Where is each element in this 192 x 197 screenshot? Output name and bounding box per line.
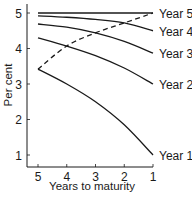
x-tick-label: 5 <box>35 170 42 184</box>
label-year-1: Year 1 <box>159 149 192 163</box>
series-labels: Year 5Year 4Year 3Year 2Year 1 <box>159 7 192 163</box>
series-lines <box>38 13 153 155</box>
x-axis-label: Years to maturity <box>49 180 135 192</box>
y-tick-label: 1 <box>15 149 22 163</box>
line-year-1 <box>38 69 153 155</box>
line-year-3 <box>38 24 153 53</box>
y-ticks: 12345 <box>15 7 30 163</box>
y-tick-label: 5 <box>15 7 22 21</box>
y-tick-label: 3 <box>15 78 22 92</box>
line-year-2 <box>38 38 153 84</box>
y-tick-label: 4 <box>15 42 22 56</box>
x-tick-label: 1 <box>150 170 157 184</box>
chart: 54321 12345 Years to maturity Per cent Y… <box>0 0 192 197</box>
line-year-4 <box>38 16 153 31</box>
label-year-2: Year 2 <box>159 78 192 92</box>
dashed-envelope-line <box>38 13 153 69</box>
y-axis-label: Per cent <box>2 63 14 107</box>
y-tick-label: 2 <box>15 113 22 127</box>
axes <box>27 4 153 167</box>
label-year-4: Year 4 <box>159 25 192 39</box>
label-year-3: Year 3 <box>159 47 192 61</box>
label-year-5: Year 5 <box>159 7 192 21</box>
